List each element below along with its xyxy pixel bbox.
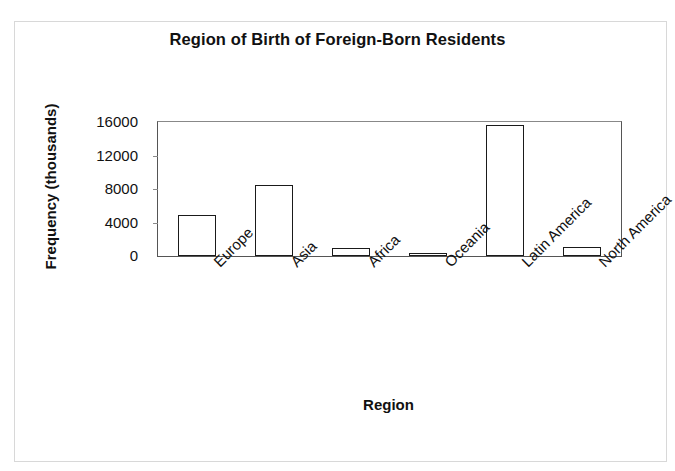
x-axis-tick-label: Africa — [364, 258, 376, 270]
x-axis-tick-labels: EuropeAsiaAfricaOceaniaLatin AmericaNort… — [157, 258, 620, 378]
y-axis-tick-label: 12000 — [0, 146, 150, 163]
bar — [486, 125, 524, 256]
bar — [178, 215, 216, 256]
y-axis-tick-mark — [153, 223, 158, 224]
bar — [563, 247, 601, 256]
y-axis-tick-label: 8000 — [0, 180, 150, 197]
y-axis-tick-label: 0 — [0, 247, 150, 264]
bar — [409, 253, 447, 256]
bar — [255, 185, 293, 256]
y-axis-tick-mark — [153, 189, 158, 190]
y-axis-tick-label: 16000 — [0, 113, 150, 130]
x-axis-tick-label: Europe — [210, 258, 222, 270]
y-axis-tick-mark — [153, 156, 158, 157]
x-axis-title: Region — [157, 396, 620, 413]
bar — [332, 248, 370, 256]
y-axis-tick-label: 4000 — [0, 213, 150, 230]
x-axis-tick-label: Latin America — [518, 258, 530, 270]
x-axis-tick-label: North America — [595, 258, 607, 270]
x-axis-tick-label: Oceania — [441, 258, 453, 270]
y-axis-tick-labels: 0400080001200016000 — [0, 0, 150, 471]
x-axis-tick-label: Asia — [287, 258, 299, 270]
